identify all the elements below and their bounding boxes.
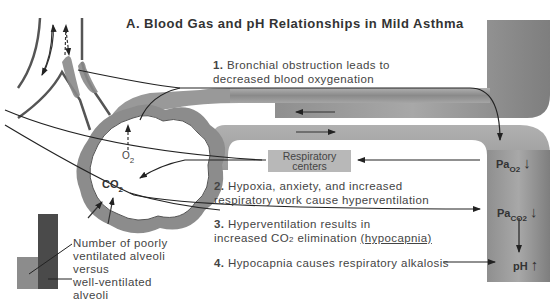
step-1-text: 1. Bronchial obstruction leads to decrea…: [213, 58, 390, 86]
diagram-title: A. Blood Gas and pH Relationships in Mil…: [126, 16, 464, 31]
respiratory-centers-box: Respiratory centers: [268, 150, 351, 172]
co2-label: CO2: [102, 178, 123, 190]
diagram: A. Blood Gas and pH Relationships in Mil…: [0, 0, 559, 300]
up-arrow-icon: ↑: [531, 256, 539, 273]
step-4-text: 4. Hypocapnia causes respiratory alkalos…: [214, 256, 449, 270]
o2-label: O2: [122, 150, 134, 161]
down-arrow-icon: ↓: [530, 203, 538, 220]
legend-bar-chart: [17, 214, 72, 289]
pao2-label: PaO2 ↓: [496, 154, 531, 171]
down-arrow-icon: ↓: [523, 154, 531, 171]
ph-label: pH ↑: [513, 256, 538, 273]
alveolus: [76, 104, 225, 233]
mucus-plug: [62, 56, 98, 98]
paco2-label: PaCO2 ↓: [497, 203, 537, 220]
legend-text: Number of poorly ventilated alveoli vers…: [73, 237, 168, 300]
step-2-text: 2. Hypoxia, anxiety, and increased respi…: [214, 179, 429, 207]
step-3-text: 3. Hyperventilation results in increased…: [214, 217, 432, 247]
